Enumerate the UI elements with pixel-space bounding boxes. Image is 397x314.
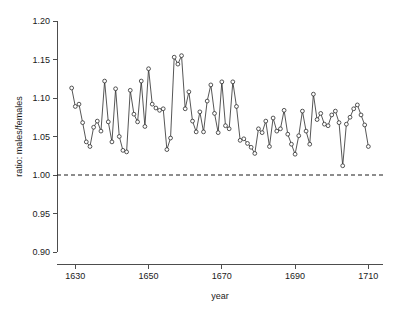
data-point xyxy=(84,140,88,144)
y-axis-title: ratio: males/females xyxy=(14,96,24,177)
data-point xyxy=(257,127,261,131)
data-point xyxy=(224,124,228,128)
data-point xyxy=(176,62,180,66)
data-point xyxy=(172,55,176,59)
data-point xyxy=(77,102,81,106)
data-point xyxy=(158,108,162,112)
data-point xyxy=(106,120,110,124)
ratio-line-chart: 0.900.951.001.051.101.151.20 16301650167… xyxy=(0,0,397,314)
data-point xyxy=(169,136,173,140)
data-point xyxy=(183,107,187,111)
data-point xyxy=(319,112,323,116)
x-tick-label: 1690 xyxy=(285,271,305,281)
data-point xyxy=(235,105,239,109)
data-point xyxy=(143,125,147,129)
data-point xyxy=(70,86,74,90)
data-point xyxy=(312,92,316,96)
data-point xyxy=(81,121,85,125)
data-point xyxy=(198,110,202,114)
y-tick-label: 1.10 xyxy=(32,93,50,103)
data-point xyxy=(238,138,242,142)
data-point xyxy=(132,112,136,116)
data-point xyxy=(275,129,279,133)
y-tick-label: 1.05 xyxy=(32,132,50,142)
data-point xyxy=(139,79,143,83)
data-point xyxy=(191,119,195,123)
x-axis-title: year xyxy=(211,291,229,301)
data-point xyxy=(322,122,326,126)
data-point xyxy=(308,142,312,146)
x-tick-label: 1650 xyxy=(139,271,159,281)
data-point xyxy=(337,121,341,125)
data-point xyxy=(117,135,121,139)
data-point xyxy=(150,102,154,106)
data-point xyxy=(92,125,96,129)
data-point xyxy=(297,134,301,138)
data-point xyxy=(268,145,272,149)
data-point xyxy=(128,88,132,92)
data-point xyxy=(260,131,264,135)
data-point xyxy=(73,105,77,109)
data-point xyxy=(352,107,356,111)
data-point xyxy=(279,127,283,131)
data-point xyxy=(114,87,118,91)
data-point xyxy=(246,142,250,146)
data-point xyxy=(110,140,114,144)
data-point xyxy=(264,119,268,123)
data-point xyxy=(95,119,99,123)
data-point xyxy=(330,113,334,117)
y-tick-label: 1.15 xyxy=(32,55,50,65)
chart-background xyxy=(0,0,397,314)
data-point xyxy=(326,124,330,128)
data-point xyxy=(359,113,363,117)
data-point xyxy=(147,67,151,71)
data-point xyxy=(202,130,206,134)
y-tick-label: 1.20 xyxy=(32,16,50,26)
data-point xyxy=(216,131,220,135)
y-tick-label: 0.90 xyxy=(32,247,50,257)
y-tick-label: 0.95 xyxy=(32,209,50,219)
data-point xyxy=(187,90,191,94)
data-point xyxy=(341,164,345,168)
data-point xyxy=(363,123,367,127)
data-point xyxy=(282,108,286,112)
data-point xyxy=(88,145,92,149)
data-point xyxy=(136,120,140,124)
chart-figure: 0.900.951.001.051.101.151.20 16301650167… xyxy=(0,0,397,314)
data-point xyxy=(165,148,169,152)
data-point xyxy=(209,83,213,87)
data-point xyxy=(286,132,290,136)
y-tick-label: 1.00 xyxy=(32,170,50,180)
data-point xyxy=(161,107,165,111)
data-point xyxy=(290,142,294,146)
data-point xyxy=(301,109,305,113)
data-point xyxy=(125,150,129,154)
data-point xyxy=(154,106,158,110)
data-point xyxy=(253,152,257,156)
data-point xyxy=(304,129,308,133)
x-tick-label: 1670 xyxy=(212,271,232,281)
data-point xyxy=(231,80,235,84)
data-point xyxy=(103,79,107,83)
data-point xyxy=(121,148,125,152)
data-point xyxy=(99,129,103,133)
data-point xyxy=(220,80,224,84)
data-point xyxy=(180,54,184,58)
data-point xyxy=(333,109,337,113)
data-point xyxy=(205,99,209,103)
x-tick-label: 1630 xyxy=(65,271,85,281)
data-point xyxy=(355,103,359,107)
data-point xyxy=(242,137,246,141)
data-point xyxy=(271,116,275,120)
data-point xyxy=(344,122,348,126)
data-point xyxy=(315,118,319,122)
data-point xyxy=(348,115,352,119)
data-point xyxy=(213,112,217,116)
data-point xyxy=(249,145,253,149)
x-tick-label: 1710 xyxy=(358,271,378,281)
data-point xyxy=(366,145,370,149)
data-point xyxy=(194,130,198,134)
data-point xyxy=(227,127,231,131)
data-point xyxy=(293,152,297,156)
